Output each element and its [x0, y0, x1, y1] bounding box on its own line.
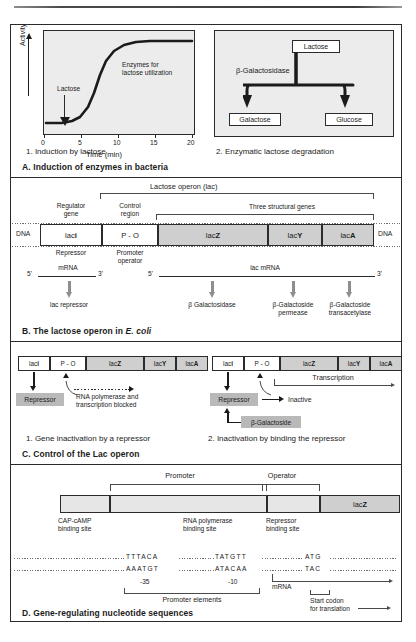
x-tick-label-10: 10: [113, 139, 121, 146]
mrna-small-5prime: 5': [27, 270, 32, 278]
gene-lac-i-prefix: lac: [65, 231, 75, 240]
gene-lac-i-suffix: i: [75, 231, 77, 240]
d-site2-l2: binding site: [183, 525, 216, 533]
degradation-arrows-svg: [243, 52, 355, 114]
mrna-small-3prime: 3': [98, 270, 103, 278]
panelD-title-prefix: D.: [22, 608, 33, 618]
d-seq-top-dots-4: [330, 558, 398, 559]
c-left-lac-z-suffix: Z: [117, 360, 121, 367]
structural-genes-bracket: [156, 214, 374, 220]
gene-lac-a-suffix: A: [350, 231, 355, 240]
d-repressor-segment: [267, 495, 320, 513]
c-right-gene-lac-z: lac Z: [280, 356, 338, 371]
c-left-gene-lac-z: lac Z: [86, 356, 144, 371]
x-tick-label-0: 0: [41, 139, 45, 146]
c-right-transcription-line: [274, 385, 392, 386]
c-left-lac-z-prefix: lac: [109, 360, 117, 367]
d-seq-bottom-tac: TAC: [305, 565, 321, 572]
panelA-title-prefix: A.: [22, 162, 33, 172]
c-right-gene-lac-i: lac i: [212, 356, 244, 371]
d-seq-bot-dots-2: [179, 570, 215, 571]
d-minus35-label: -35: [140, 578, 150, 586]
lac-mrna-5prime: 5': [148, 270, 153, 278]
product-arrow-head-3: [290, 292, 296, 298]
gene-lac-a: lac A: [322, 224, 374, 246]
c-right-lac-z-prefix: lac: [303, 360, 311, 367]
gene-lac-a-prefix: lac: [340, 231, 350, 240]
x-tick-15: [155, 135, 156, 138]
d-promoter-label: Promoter: [150, 472, 210, 480]
top-rule: [14, 6, 402, 8]
lactose-operon-bracket: [100, 193, 374, 199]
c-right-lac-i-suffix: i: [231, 360, 233, 367]
panelC-title: C. Control of the Lac operon: [22, 449, 140, 459]
gene-lac-z-suffix: Z: [216, 231, 221, 240]
d-operator-label: Operator: [252, 472, 312, 480]
c-left-gene-lac-i: lac i: [18, 356, 50, 371]
panelC-title-prefix: C.: [22, 449, 33, 459]
d-site2-l1: RNA polymerase: [183, 517, 232, 525]
panelB-title: B. The lactose operon in E. coli: [22, 326, 151, 336]
gene-promoter-operator: P - O: [102, 224, 158, 246]
product-transacetylase-l1: β-Galactoside: [314, 301, 386, 309]
c-left-lac-i-prefix: lac: [29, 360, 37, 367]
gene-lac-y-suffix: Y: [297, 231, 302, 240]
galactose-node: Galactose: [229, 113, 281, 126]
d-promoter-elements-label: Promoter elements: [124, 596, 260, 604]
x-tick-20: [192, 135, 193, 138]
dna-label-right: DNA: [378, 230, 392, 238]
repressor-caption: Repressor: [41, 249, 101, 257]
promoter-caption-l2: operator: [103, 257, 157, 265]
x-tick-label-5: 5: [78, 139, 82, 146]
d-lacz-suffix: Z: [362, 500, 367, 509]
c-right-lac-i-prefix: lac: [223, 360, 231, 367]
d-seq-top-dots-3: [262, 558, 304, 559]
c-right-inactive-arrow-head: [279, 396, 284, 402]
divider-C-D: [10, 464, 402, 465]
d-seq-top-minus35: TTTACA: [126, 553, 158, 560]
x-tick-10: [118, 135, 119, 138]
c-right-po-label: P - O: [255, 360, 270, 367]
c-left-lac-y-suffix: Y: [162, 360, 166, 367]
activity-axis-arrow: [28, 38, 29, 96]
regulator-gene-label-l1: Regulator: [41, 202, 101, 210]
x-tick-5: [81, 135, 82, 138]
d-rna-polymerase-segment: [110, 495, 267, 513]
x-tick-label-15: 15: [150, 139, 158, 146]
d-cap-camp-segment: [60, 495, 110, 513]
c-left-lac-y-prefix: lac: [154, 360, 162, 367]
dna-label-left: DNA: [16, 230, 30, 238]
gene-lac-z-prefix: lac: [206, 231, 216, 240]
d-site1-l2: binding site: [58, 525, 91, 533]
panelC-caption-1: 1. Gene inactivation by a repressor: [26, 434, 150, 443]
product-beta-galactosidase: β Galactosidase: [172, 301, 252, 309]
panelA-caption-2: 2. Enzymatic lactose degradation: [216, 147, 334, 156]
c-right-lac-z-suffix: Z: [311, 360, 315, 367]
d-translation-arrow-head: [387, 606, 391, 610]
d-site1-l1: CAP-cAMP: [58, 517, 91, 525]
d-seq-top-dots-1: [14, 558, 126, 559]
control-region-label-l2: region: [103, 210, 157, 218]
d-seq-top-dots-2: [179, 558, 215, 559]
c-right-inactive-label: Inactive: [288, 396, 311, 404]
c-right-gene-lac-y: lac Y: [338, 356, 370, 371]
panelD-title: D. Gene-regulating nucleotide sequences: [22, 608, 193, 618]
product-arrow-head-4: [346, 292, 352, 298]
c-right-repressor-arrow-head: [224, 386, 230, 391]
panelA-title-text: Induction of enzymes in bacteria: [33, 162, 168, 172]
d-mrna-line: [272, 581, 390, 582]
lac-mrna-3prime: 3': [377, 270, 382, 278]
product-arrow-head-2: [209, 292, 215, 298]
structural-genes-label: Three structural genes: [190, 203, 374, 211]
lac-mrna-line: [159, 276, 375, 277]
y-axis-label: Activity: [19, 24, 26, 46]
glucose-node: Glucose: [325, 113, 373, 126]
product-arrow-head-1: [66, 292, 72, 298]
divider-A-B: [10, 177, 402, 178]
c-right-gene-lac-a: lac A: [370, 356, 402, 371]
panelB-title-text: The lactose operon in: [33, 326, 125, 336]
d-lacz-prefix: lac: [353, 500, 362, 509]
d-translation-arrow-line: [358, 608, 388, 609]
panelB-title-prefix: B.: [22, 326, 33, 336]
figure-page: Activity 0 5 10 15 20 Time (min) Lactose…: [0, 0, 416, 642]
